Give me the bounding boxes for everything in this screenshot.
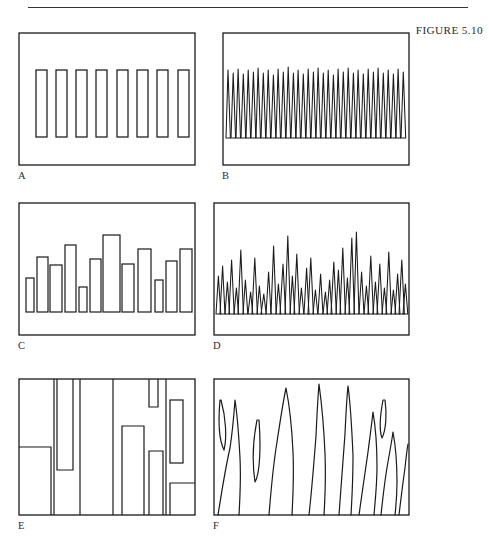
panel-e-artwork: [18, 378, 196, 516]
panel-letter-c: C: [18, 340, 25, 351]
panel-letter-a: A: [18, 170, 26, 181]
figure-panel-d: [213, 202, 410, 336]
header-rule: [28, 7, 468, 8]
figure-number-label: FIGURE 5.10: [416, 24, 483, 36]
figure-panel-b: [222, 32, 410, 166]
figure-panel-a: [18, 32, 196, 166]
panel-a-artwork: [18, 32, 196, 166]
figure-panel-c: [18, 202, 196, 336]
panel-letter-f: F: [213, 520, 219, 531]
panel-letter-e: E: [18, 520, 25, 531]
panel-d-artwork: [213, 202, 410, 336]
panel-f-artwork: [213, 378, 410, 516]
panel-c-artwork: [18, 202, 196, 336]
panel-b-artwork: [222, 32, 410, 166]
figure-panel-f: [213, 378, 410, 516]
panel-letter-b: B: [222, 170, 229, 181]
running-head: [0, 0, 489, 1]
panel-letter-d: D: [213, 340, 221, 351]
figure-panel-e: [18, 378, 196, 516]
